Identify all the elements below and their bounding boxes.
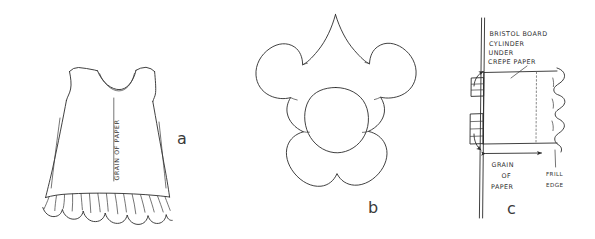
frill-inner-strokes bbox=[552, 78, 554, 131]
flower-center-oval bbox=[305, 88, 369, 153]
dress-fold-2 bbox=[159, 122, 166, 188]
grain-label-line2: OF bbox=[502, 172, 512, 180]
panel-flower: b bbox=[235, 0, 465, 239]
dress-right-shoulder bbox=[136, 67, 155, 71]
panel-dress: GRAIN OF PAPER a bbox=[0, 0, 235, 239]
bristol-board-label-line4: CREPE PAPER bbox=[488, 58, 536, 66]
dress-drawing: GRAIN OF PAPER a bbox=[0, 0, 235, 239]
dress-neckline-outer bbox=[98, 70, 137, 89]
crepe-paper-fold-dotted-line bbox=[536, 72, 537, 143]
dress-left-shoulder-armhole-side bbox=[70, 68, 98, 72]
tab-stack-upper bbox=[471, 78, 483, 97]
frill-edge-label-line1: FRILL bbox=[546, 171, 563, 177]
flower-notch-right bbox=[374, 97, 380, 99]
bristol-board-label-line2: CYLINDER bbox=[489, 40, 525, 48]
grain-label-line1: GRAIN bbox=[492, 161, 514, 169]
dress-grain-label-group: GRAIN OF PAPER bbox=[113, 119, 120, 180]
cylinder-stick-left-edge bbox=[479, 18, 481, 218]
bristol-board-label-line3: UNDER bbox=[489, 49, 514, 57]
figure-sheet: GRAIN OF PAPER a b bbox=[0, 0, 595, 239]
flower-drawing: b bbox=[235, 0, 465, 239]
cylinder-drawing: BRISTOL BOARD CYLINDER UNDER CREPE PAPER… bbox=[465, 0, 595, 239]
bristol-board-label-line1: BRISTOL BOARD bbox=[490, 30, 548, 38]
grain-double-arrow bbox=[486, 153, 542, 154]
flower-notch-left bbox=[291, 98, 298, 100]
crepe-paper-sheet-bottom-edge bbox=[483, 143, 557, 144]
grain-label-line3: PAPER bbox=[491, 183, 514, 191]
dress-grain-label: GRAIN OF PAPER bbox=[113, 119, 120, 180]
flower-notch-bottom-right bbox=[362, 131, 368, 132]
dress-right-side-seam bbox=[153, 102, 170, 198]
dress-fold-1 bbox=[51, 118, 60, 188]
dress-right-armhole bbox=[153, 72, 156, 102]
dress-ruffle-bottom-scallop bbox=[43, 208, 172, 225]
dress-left-armhole bbox=[66, 72, 71, 101]
frill-edge-label-line2: EDGE bbox=[546, 182, 563, 188]
figure-letter-c: c bbox=[507, 199, 516, 218]
figure-letter-b: b bbox=[368, 198, 378, 217]
tab-stack-lower bbox=[470, 114, 483, 144]
frill-edge-leader-line bbox=[555, 150, 556, 167]
figure-letter-a: a bbox=[177, 129, 187, 148]
panel-cylinder: BRISTOL BOARD CYLINDER UNDER CREPE PAPER… bbox=[465, 0, 595, 239]
frill-wavy-edge bbox=[554, 68, 565, 152]
flower-petal-outline bbox=[256, 15, 416, 187]
